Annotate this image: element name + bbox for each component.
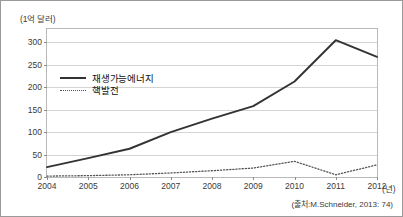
x-axis-tick-label: 2006 [120, 181, 139, 191]
series-lines [47, 29, 377, 177]
legend-swatch-dotted-icon [60, 86, 86, 94]
legend-label-nuclear: 핵발전 [92, 83, 118, 97]
plot-area: 050100150200250300 200420052006200720082… [46, 28, 378, 178]
x-axis-tick-mark [253, 177, 254, 180]
series-line-nuclear [47, 161, 377, 176]
y-axis-tick-label: 100 [28, 127, 42, 137]
x-axis-tick-mark [88, 177, 89, 180]
y-axis-tick-label: 200 [28, 82, 42, 92]
x-axis-tick-label: 2004 [38, 181, 57, 191]
x-axis-tick-label: 2011 [327, 181, 345, 191]
x-axis-unit-label: (년) [382, 182, 396, 194]
legend-swatch-solid-icon [60, 74, 86, 82]
x-axis-tick-label: 2005 [79, 181, 98, 191]
x-axis-tick-mark [130, 177, 131, 180]
x-axis-tick-label: 2007 [161, 181, 180, 191]
x-axis-tick-label: 2008 [203, 181, 222, 191]
chart-figure: (1억 달러) 050100150200250300 2004200520062… [0, 0, 403, 217]
y-axis-unit-label: (1억 달러) [20, 12, 55, 24]
source-note: (출처:M.Schneider, 2013: 74) [291, 198, 393, 209]
x-axis-tick-mark [171, 177, 172, 180]
chart-legend: 재생가능에너지 핵발전 [60, 72, 154, 96]
x-axis-tick-mark [377, 177, 378, 180]
y-axis-tick-label: 50 [33, 150, 42, 160]
y-axis-tick-label: 250 [28, 60, 42, 70]
x-axis-tick-label: 2009 [244, 181, 263, 191]
series-line-renewable [47, 40, 377, 167]
x-axis-tick-mark [47, 177, 48, 180]
x-axis-tick-label: 2010 [285, 181, 304, 191]
x-axis-tick-mark [336, 177, 337, 180]
x-axis-tick-mark [212, 177, 213, 180]
x-axis-tick-mark [295, 177, 296, 180]
y-axis-tick-label: 150 [28, 105, 42, 115]
y-axis-tick-label: 300 [28, 37, 42, 47]
legend-item-nuclear: 핵발전 [60, 84, 154, 96]
